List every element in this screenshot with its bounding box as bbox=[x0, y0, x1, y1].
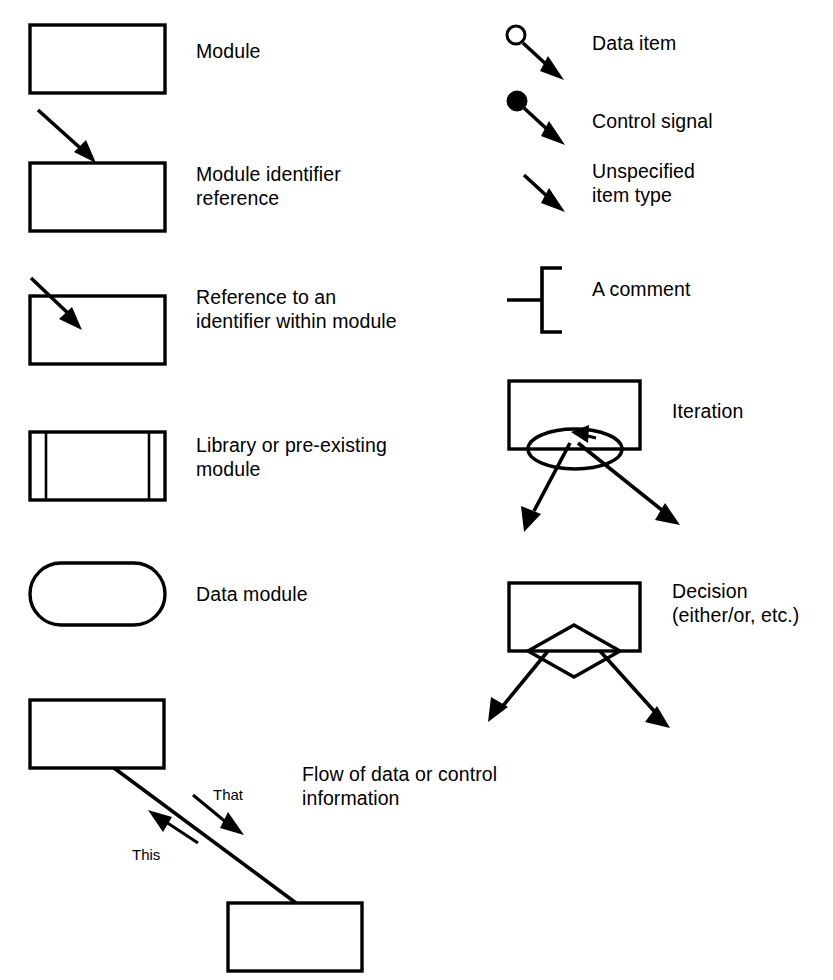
library-module-label-line2: module bbox=[196, 458, 261, 480]
legend-entry-unspecified-item: Unspecified item type bbox=[524, 160, 695, 212]
flow-this-arrow-head bbox=[148, 810, 172, 832]
module-identifier-box bbox=[30, 163, 165, 231]
flow-label-line2: information bbox=[302, 787, 400, 809]
decision-right-arrow-head bbox=[645, 706, 670, 728]
decision-box bbox=[509, 583, 640, 651]
reference-within-module-label-line2: identifier within module bbox=[196, 310, 397, 332]
comment-label: A comment bbox=[592, 278, 691, 300]
flow-upper-box bbox=[30, 700, 164, 768]
legend-entry-module-identifier-reference: Module identifier reference bbox=[30, 110, 341, 231]
legend-entry-module: Module bbox=[30, 25, 261, 93]
decision-right-arrow-shaft bbox=[600, 651, 655, 712]
decision-label-line1: Decision bbox=[672, 580, 748, 602]
legend-diagram: Module Module identifier reference Refer… bbox=[0, 0, 833, 980]
flow-label-line1: Flow of data or control bbox=[302, 763, 497, 785]
data-module-stadium bbox=[30, 563, 165, 625]
library-module-box bbox=[30, 432, 165, 500]
iteration-left-arrow-head bbox=[521, 506, 541, 532]
decision-label-line2: (either/or, etc.) bbox=[672, 604, 799, 626]
control-signal-label: Control signal bbox=[592, 110, 713, 132]
module-identifier-label-line1: Module identifier bbox=[196, 163, 341, 185]
flow-diagonal-link bbox=[114, 768, 296, 903]
iteration-left-arrow-shaft bbox=[534, 443, 570, 511]
flow-lower-box bbox=[228, 903, 362, 971]
legend-entry-library-module: Library or pre-existing module bbox=[30, 432, 387, 500]
unspecified-item-arrow-shaft bbox=[524, 175, 549, 198]
module-identifier-label-line2: reference bbox=[196, 187, 279, 209]
flow-that-label: That bbox=[213, 786, 244, 803]
legend-entry-iteration: Iteration bbox=[509, 381, 743, 532]
module-box bbox=[30, 25, 165, 93]
data-item-arrow-shaft bbox=[523, 43, 548, 66]
flow-that-arrow-head bbox=[220, 812, 244, 835]
data-item-open-circle bbox=[507, 26, 525, 44]
iteration-label: Iteration bbox=[672, 400, 743, 422]
legend-entry-reference-within-module: Reference to an identifier within module bbox=[30, 278, 397, 364]
legend-entry-flow: That This Flow of data or control inform… bbox=[30, 700, 497, 971]
legend-entry-comment: A comment bbox=[507, 268, 691, 332]
unspecified-item-label-line1: Unspecified bbox=[592, 160, 695, 182]
library-module-label-line1: Library or pre-existing bbox=[196, 434, 387, 456]
legend-entry-data-item: Data item bbox=[507, 26, 676, 80]
unspecified-item-label-line2: item type bbox=[592, 184, 672, 206]
comment-bracket-icon bbox=[542, 268, 562, 332]
iteration-box bbox=[509, 381, 640, 449]
reference-within-module-box bbox=[30, 296, 165, 364]
legend-entry-decision: Decision (either/or, etc.) bbox=[488, 580, 799, 728]
legend-entry-control-signal: Control signal bbox=[507, 91, 713, 145]
control-signal-arrow-shaft bbox=[524, 108, 549, 131]
flow-this-label: This bbox=[132, 846, 160, 863]
data-item-label: Data item bbox=[592, 32, 676, 54]
reference-within-module-label-line1: Reference to an bbox=[196, 286, 336, 308]
data-module-label: Data module bbox=[196, 583, 308, 605]
legend-entry-data-module: Data module bbox=[30, 563, 308, 625]
notation-legend-canvas: Module Module identifier reference Refer… bbox=[0, 0, 833, 980]
module-label: Module bbox=[196, 40, 261, 62]
